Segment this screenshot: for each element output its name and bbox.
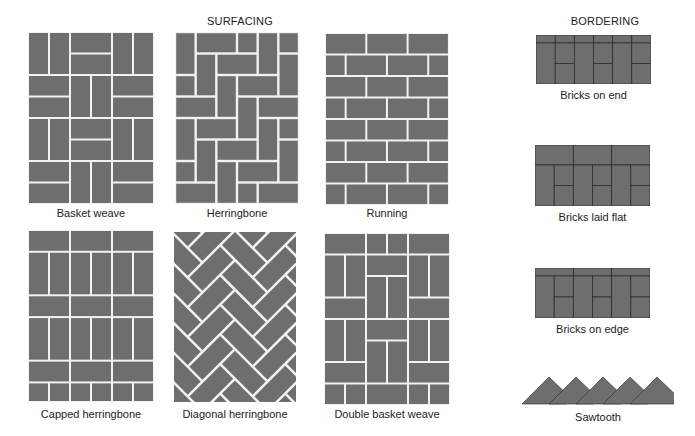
- brick: [92, 76, 111, 117]
- brick: [388, 277, 407, 318]
- brick: [238, 162, 277, 181]
- brick: [29, 162, 69, 182]
- brick: [555, 43, 574, 64]
- brick: [326, 120, 365, 140]
- brick: [326, 99, 345, 119]
- brick: [346, 256, 365, 297]
- brick: [29, 318, 48, 360]
- brick: [176, 184, 215, 203]
- brick: [71, 141, 111, 161]
- brick: [176, 162, 194, 181]
- brick: [632, 64, 651, 85]
- brick: [113, 383, 132, 401]
- cap-brick: [594, 35, 613, 43]
- cap-brick: [632, 35, 651, 43]
- brick: [409, 385, 428, 405]
- brick: [29, 231, 69, 251]
- brick: [29, 184, 69, 204]
- brick: [259, 184, 298, 203]
- brick: [555, 64, 574, 85]
- cap-brick: [613, 35, 632, 43]
- brick: [326, 34, 365, 54]
- brick: [388, 342, 407, 383]
- brick: [535, 165, 554, 206]
- brick: [326, 185, 345, 205]
- brick: [409, 363, 449, 383]
- brick: [71, 119, 111, 139]
- brick: [259, 98, 298, 117]
- brick: [197, 33, 236, 52]
- running-pattern: [325, 33, 449, 205]
- brick: [367, 277, 386, 318]
- herringbone-caption: Herringbone: [175, 207, 299, 219]
- brick: [367, 77, 406, 97]
- brick: [71, 162, 90, 203]
- brick: [409, 320, 428, 361]
- brick: [29, 98, 69, 118]
- brick: [92, 253, 111, 295]
- brick: [367, 385, 407, 405]
- brick: [325, 385, 344, 405]
- brick: [113, 119, 132, 160]
- brick: [218, 55, 257, 74]
- brick: [113, 253, 132, 295]
- brick: [71, 383, 90, 401]
- cap-brick: [535, 145, 573, 165]
- brick: [554, 165, 573, 186]
- brick: [613, 43, 632, 84]
- brick: [71, 318, 90, 360]
- brick: [367, 320, 407, 340]
- brick: [92, 318, 111, 360]
- brick: [554, 297, 573, 318]
- surfacing-heading: SURFACING: [200, 15, 280, 27]
- brick: [113, 98, 153, 118]
- brick: [50, 253, 69, 295]
- brick: [113, 184, 153, 204]
- brick: [218, 141, 257, 160]
- brick: [113, 362, 153, 382]
- brick: [409, 34, 448, 54]
- basket-weave-caption: Basket weave: [28, 207, 154, 219]
- brick: [429, 185, 448, 205]
- brick: [134, 383, 153, 401]
- cap-brick: [555, 35, 574, 43]
- brick: [631, 186, 650, 207]
- brick: [346, 320, 365, 361]
- sawtooth-pattern: [522, 376, 674, 406]
- cap-brick: [612, 268, 650, 276]
- brick: [197, 55, 215, 96]
- brick: [388, 56, 427, 76]
- bordering-heading: BORDERING: [555, 15, 655, 27]
- brick: [346, 385, 365, 405]
- brick: [71, 231, 111, 251]
- brick: [347, 56, 386, 76]
- brick: [71, 76, 90, 117]
- double-basket-weave-pattern: [324, 233, 450, 405]
- cap-brick: [535, 268, 573, 276]
- bricks-laid-flat-pattern: [535, 145, 650, 206]
- cap-brick: [573, 268, 611, 276]
- capped-herringbone-caption: Capped herringbone: [20, 408, 162, 420]
- brick: [612, 276, 631, 318]
- brick: [134, 318, 153, 360]
- brick: [29, 119, 48, 160]
- diagonal-herringbone-pattern: [174, 232, 296, 402]
- double-basket-weave-caption: Double basket weave: [315, 408, 459, 420]
- brick: [632, 43, 651, 64]
- brick: [29, 383, 48, 401]
- brick: [71, 362, 111, 382]
- brick: [429, 142, 448, 162]
- brick: [594, 64, 613, 85]
- brick: [388, 234, 407, 254]
- brick: [134, 119, 153, 160]
- brick: [429, 56, 448, 76]
- brick: [430, 320, 449, 361]
- brick: [429, 99, 448, 119]
- brick: [409, 256, 428, 297]
- brick: [325, 363, 365, 383]
- brick: [573, 276, 592, 318]
- brick: [280, 141, 298, 182]
- brick: [347, 185, 386, 205]
- brick: [631, 165, 650, 186]
- diagonal-herringbone-caption: Diagonal herringbone: [165, 408, 305, 420]
